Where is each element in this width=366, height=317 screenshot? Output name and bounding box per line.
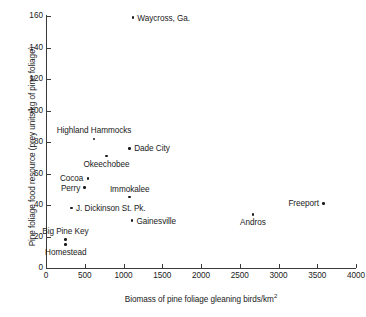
data-point [322,202,325,205]
x-tick [279,264,280,268]
data-point [252,213,255,216]
data-point [128,196,131,199]
data-point-label: Perry [61,183,80,192]
x-tick [317,264,318,268]
y-tick [47,111,51,112]
data-point-label: Big Pine Key [42,227,88,236]
y-tick [47,237,51,238]
x-tick [356,264,357,268]
x-axis-title: Biomass of pine foliage gleaning birds/k… [46,293,356,304]
x-tick [240,264,241,268]
x-tick-label: 3000 [259,272,299,280]
x-tick [124,264,125,268]
x-tick-label: 2500 [220,272,260,280]
x-tick-label: 3500 [297,272,337,280]
y-tick [47,174,51,175]
data-point [64,243,67,246]
data-point [64,238,67,241]
x-tick-label: 500 [65,272,105,280]
y-axis-title: Pine foliage food resource (prey units/k… [28,17,37,277]
scatter-chart: 020406080100120140160 050010001500200025… [0,0,366,317]
data-point-label: Waycross, Ga. [137,13,190,22]
x-tick-label: 2000 [181,272,221,280]
y-tick [47,142,51,143]
data-point [87,177,90,180]
data-point-label: Freeport [288,199,319,208]
data-point [132,16,135,19]
data-point-label: Gainesville [137,216,177,225]
data-point [93,138,96,141]
data-point-label: Dade City [134,144,170,153]
data-point-label: Cocoa [60,174,83,183]
x-tick [201,264,202,268]
x-tick-label: 1500 [142,272,182,280]
x-tick-label: 4000 [336,272,366,280]
y-tick [47,16,51,17]
x-tick [162,264,163,268]
y-tick [47,48,51,49]
x-axis-line [46,268,356,269]
y-tick [47,205,51,206]
data-point [105,155,108,158]
y-tick [47,79,51,80]
data-point-label: Andros [240,218,266,227]
data-point-label: Immokalee [110,185,150,194]
data-point-label: Okeechobee [83,160,129,169]
data-point [131,219,134,222]
x-tick-label: 1000 [104,272,144,280]
data-point-label: Homestead [45,248,86,257]
y-tick [47,268,51,269]
data-point-label: J. Dickinson St. Pk. [76,204,146,213]
data-point [70,207,73,210]
data-point-label: Highland Hammocks [57,126,132,135]
data-point [128,147,131,150]
x-tick [85,264,86,268]
data-point [83,186,86,189]
